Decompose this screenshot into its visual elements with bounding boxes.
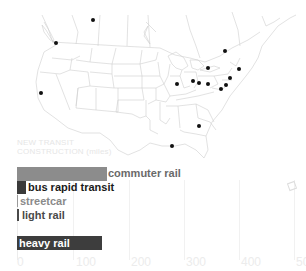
- city-dot: [219, 87, 223, 91]
- city-dot: [237, 67, 241, 71]
- chart-title-line1: NEW TRANSIT: [17, 138, 112, 147]
- city-dot: [170, 144, 174, 148]
- city-dot: [228, 76, 232, 80]
- label-heavy-rail: heavy rail: [19, 237, 70, 250]
- legend-marker-icon: [287, 181, 297, 191]
- city-dot: [224, 83, 228, 87]
- gridline: [184, 180, 185, 260]
- city-dot: [54, 41, 58, 45]
- gridline: [239, 180, 240, 260]
- chart-title-line2: CONSTRUCTION (miles): [17, 147, 112, 156]
- city-dot: [206, 66, 210, 70]
- city-dot: [206, 82, 210, 86]
- us-map: [0, 0, 306, 160]
- label-streetcar: streetcar: [20, 195, 66, 208]
- city-dot: [223, 49, 227, 53]
- bar-streetcar: [17, 195, 18, 207]
- bar-commuter-rail: [17, 167, 107, 181]
- city-dot: [197, 81, 201, 85]
- x-tick: 0: [17, 255, 24, 269]
- label-light-rail: light rail: [22, 209, 65, 222]
- country-outline: [36, 15, 296, 158]
- city-dot: [197, 124, 201, 128]
- label-bus-rapid-transit: bus rapid transit: [28, 181, 114, 194]
- city-dot: [91, 18, 95, 22]
- bar-bus-rapid-transit: [17, 181, 26, 194]
- x-tick: 500: [296, 255, 306, 269]
- gridline: [294, 180, 295, 260]
- gridline: [129, 180, 130, 260]
- chart-title: NEW TRANSIT CONSTRUCTION (miles): [17, 138, 112, 156]
- x-tick: 100: [76, 255, 96, 269]
- city-dot: [191, 79, 195, 83]
- city-dot: [39, 91, 43, 95]
- label-commuter-rail: commuter rail: [108, 167, 181, 180]
- x-tick: 400: [241, 255, 261, 269]
- x-tick: 300: [186, 255, 206, 269]
- bar-light-rail: [17, 209, 19, 221]
- city-dot: [175, 82, 179, 86]
- x-tick: 200: [131, 255, 151, 269]
